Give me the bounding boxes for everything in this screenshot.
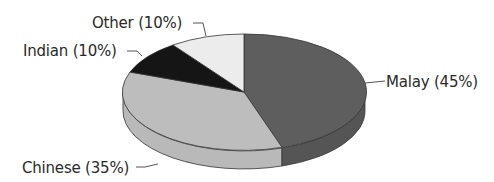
- label-malay: Malay (45%): [386, 73, 478, 91]
- label-chinese: Chinese (35%): [22, 159, 129, 177]
- label-other: Other (10%): [92, 14, 182, 32]
- label-indian: Indian (10%): [23, 42, 117, 60]
- pie-top: [122, 34, 366, 150]
- pie-chart: [0, 0, 494, 182]
